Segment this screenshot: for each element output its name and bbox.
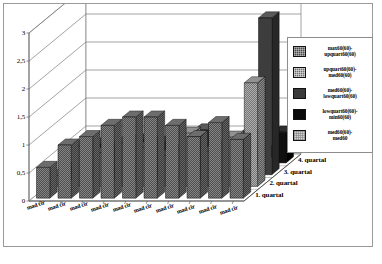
depth-label-4: 4. quartal (298, 156, 326, 164)
y-axis-tick-1: 2,5 (9, 57, 25, 65)
y-axis-tick-0: 3 (9, 29, 25, 37)
chart-screenshot: 32,521,510,50 1. quartal2. quartal3. qua… (0, 0, 382, 264)
legend-label-0: max60(60)-upquart60(60) (311, 45, 369, 57)
legend-label-line2-0: upquart60(60) (311, 51, 369, 57)
legend-item-0[interactable]: max60(60)-upquart60(60) (291, 42, 369, 60)
legend-swatch-icon-1 (293, 67, 306, 78)
y-axis-tick-5: 0,5 (9, 169, 25, 177)
legend-swatch-icon-3 (293, 109, 306, 120)
legend-label-line2-3: min60(60) (311, 114, 369, 120)
y-axis-tick-3: 1,5 (9, 113, 25, 121)
legend-label-4: med60(60)-med60 (311, 129, 369, 141)
legend-swatch-icon-0 (293, 46, 306, 57)
legend-label-line2-1: med60(60) (311, 72, 369, 78)
y-axis-tick-6: 0 (9, 197, 25, 205)
chart-frame: 32,521,510,50 1. quartal2. quartal3. qua… (3, 3, 373, 247)
y-axis-tick-2: 2 (9, 85, 25, 93)
legend-label-line2-2: lowquart60(60) (311, 93, 369, 99)
legend-rows: max60(60)-upquart60(60)upquart60(60)-med… (291, 42, 369, 144)
depth-label-1: 1. quartal (255, 191, 283, 199)
legend-label-1: upquart60(60)-med60(60) (311, 66, 369, 78)
legend-label-line2-4: med60 (311, 135, 369, 141)
depth-label-3: 3. quartal (284, 168, 312, 176)
depth-label-2: 2. quartal (269, 179, 297, 187)
chart-legend: max60(60)-upquart60(60)upquart60(60)-med… (287, 37, 373, 153)
y-axis-tick-4: 1 (9, 141, 25, 149)
legend-swatch-icon-2 (293, 88, 306, 99)
legend-item-1[interactable]: upquart60(60)-med60(60) (291, 63, 369, 81)
legend-item-2[interactable]: med60(60)-lowquart60(60) (291, 84, 369, 102)
legend-swatch-icon-4 (293, 130, 306, 141)
legend-item-3[interactable]: lowquart60(60)-min60(60) (291, 105, 369, 123)
legend-label-2: med60(60)-lowquart60(60) (311, 87, 369, 99)
legend-label-3: lowquart60(60)-min60(60) (311, 108, 369, 120)
legend-item-4[interactable]: med60(60)-med60 (291, 126, 369, 144)
